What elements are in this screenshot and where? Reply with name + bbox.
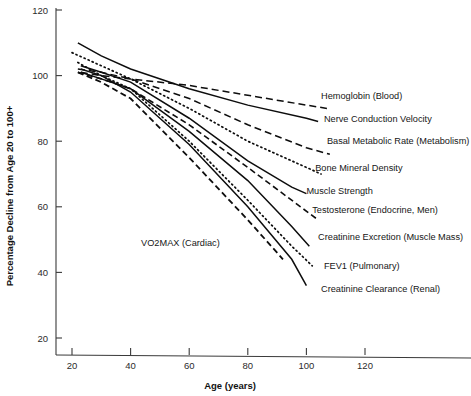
series-line-7 xyxy=(78,62,312,265)
chart-svg: 20406080100120 20406080100120 Hemoglobin… xyxy=(0,0,471,396)
y-axis-title: Percentage Decline from Age 20 to 100+ xyxy=(4,105,15,286)
y-tick-label: 100 xyxy=(32,70,48,81)
series-label-8: Creatinine Clearance (Renal) xyxy=(321,284,440,294)
y-tick-label: 80 xyxy=(37,136,48,147)
x-axis-title: Age (years) xyxy=(204,380,256,391)
series-line-8 xyxy=(81,69,307,285)
x-tick-label: 120 xyxy=(357,360,373,371)
series-lines-group xyxy=(72,43,330,286)
series-label-7: FEV1 (Pulmonary) xyxy=(324,261,400,271)
x-tick-label: 40 xyxy=(125,360,136,371)
axes-group xyxy=(56,8,471,358)
series-line-5 xyxy=(78,72,318,220)
x-axis-line xyxy=(56,355,471,358)
series-label-2: Basal Metabolic Rate (Metabolism) xyxy=(327,136,469,146)
aging-decline-line-chart: 20406080100120 20406080100120 Hemoglobin… xyxy=(0,0,471,396)
y-tick-label: 120 xyxy=(32,5,48,16)
series-label-3: Bone Mineral Density xyxy=(315,163,403,173)
x-tick-label: 80 xyxy=(243,360,254,371)
series-line-9 xyxy=(78,72,283,259)
series-labels-group: Hemoglobin (Blood)Nerve Conduction Veloc… xyxy=(141,91,469,295)
series-label-4: Muscle Strength xyxy=(306,186,372,196)
series-label-6: Creatinine Excretion (Muscle Mass) xyxy=(318,232,463,242)
x-tick-label: 100 xyxy=(298,360,314,371)
y-tick-label: 60 xyxy=(37,201,48,212)
y-tick-label: 20 xyxy=(37,333,48,344)
x-tick-label: 20 xyxy=(67,360,78,371)
series-label-0: Hemoglobin (Blood) xyxy=(321,91,402,101)
series-label-9: VO2MAX (Cardiac) xyxy=(141,238,220,248)
x-tick-label: 60 xyxy=(184,360,195,371)
series-label-1: Nerve Conduction Velocity xyxy=(324,114,432,124)
series-line-4 xyxy=(81,66,307,194)
series-line-6 xyxy=(81,72,310,246)
series-label-5: Testosterone (Endocrine, Men) xyxy=(312,205,438,215)
y-axis-ticks: 20406080100120 xyxy=(32,5,62,344)
x-axis-ticks: 20406080100120 xyxy=(67,348,373,371)
series-line-2 xyxy=(78,69,330,154)
y-tick-label: 40 xyxy=(37,267,48,278)
